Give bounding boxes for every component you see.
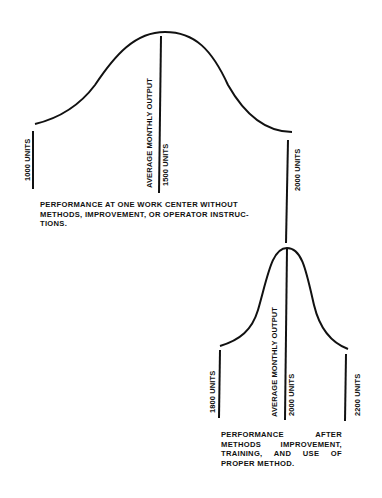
- top-avg-label: AVERAGE MONTHLY OUTPUT: [145, 78, 154, 188]
- top-mean-label: 1500 UNITS: [161, 144, 170, 186]
- top-caption-line-1: PERFORMANCE AT ONE WORK CENTER WITHOUT: [40, 200, 285, 210]
- bottom-min-label: 1800 UNITS: [208, 371, 217, 413]
- diagram-lines: [0, 0, 382, 498]
- top-max-label: 2000 UNITS: [293, 149, 302, 191]
- top-caption-line-3: TIONS.: [40, 219, 285, 229]
- bottom-max-label: 2200 UNITS: [353, 374, 362, 416]
- top-min-label: 1000 UNITS: [23, 139, 32, 181]
- bottom-mean-label: 2000 UNITS: [287, 374, 296, 416]
- bottom-bell-curve: [220, 248, 348, 349]
- top-caption-line-2: METHODS, IMPROVEMENT, OR OPERATOR INSTRU…: [40, 210, 285, 220]
- bottom-caption: PERFORMANCE AFTER METHODS IMPROVEMENT, T…: [221, 430, 342, 468]
- top-bell-curve: [35, 32, 292, 132]
- bottom-avg-label: AVERAGE MONTHLY OUTPUT: [270, 307, 279, 417]
- top-max-line: [286, 140, 288, 243]
- top-caption: PERFORMANCE AT ONE WORK CENTER WITHOUT M…: [40, 200, 285, 229]
- bottom-max-line: [345, 354, 346, 421]
- bottom-min-line: [219, 350, 220, 418]
